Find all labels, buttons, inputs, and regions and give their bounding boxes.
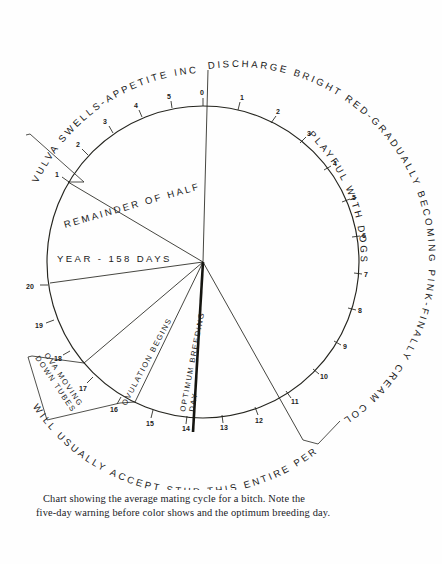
label-playful-with-dogs: PLAYFUL WITH DOGS <box>307 129 370 265</box>
label-remainder-of-half-year: REMAINDER OF HALF YEAR - 158 DAYS <box>57 180 202 264</box>
tick-label-15: 15 <box>146 420 154 427</box>
tick-label-17: 17 <box>79 385 87 392</box>
tick-label-14r: 14 <box>182 425 190 432</box>
tick-label-0: 0 <box>200 89 204 96</box>
radial-day-20 <box>50 262 203 283</box>
tick-l1 <box>62 177 69 182</box>
tick-7 <box>354 273 362 274</box>
tick-label-4l: 4 <box>134 102 138 109</box>
tick-l4 <box>139 110 142 117</box>
tick-2 <box>271 116 276 123</box>
radial-day-0 <box>203 70 208 262</box>
label-remainder-line1: REMAINDER OF HALF <box>63 180 202 230</box>
tick-19 <box>46 320 54 323</box>
label-discharge-text: DISCHARGE BRIGHT RED-GRADUALLY BECOMING … <box>0 0 438 428</box>
tick-label-20: 20 <box>26 283 34 290</box>
label-playful-with-dogs-text: PLAYFUL WITH DOGS <box>307 129 370 265</box>
tick-15 <box>151 410 153 418</box>
tick-label-1l: 1 <box>55 171 59 178</box>
label-discharge: DISCHARGE BRIGHT RED-GRADUALLY BECOMING … <box>0 0 438 428</box>
chart-page: 0 1 2 3 4 5 6 7 8 9 10 11 12 13 14 15 16… <box>0 0 442 564</box>
tick-label-5l: 5 <box>167 93 171 100</box>
tick-numbers-left-warning: 1 2 3 4 5 <box>55 93 171 178</box>
label-ovulation-begins: OVULATION BEGINS <box>120 316 174 407</box>
tick-18 <box>63 351 70 355</box>
radial-day-11 <box>203 262 303 440</box>
label-remainder-line2: YEAR - 158 DAYS <box>57 253 172 264</box>
tick-label-1r: 1 <box>240 94 244 101</box>
radial-day-18 <box>84 262 203 363</box>
tick-label-2l: 2 <box>76 141 80 148</box>
tick-4 <box>324 166 331 170</box>
leader-color-end <box>303 421 340 444</box>
tick-label-8r: 8 <box>358 307 362 314</box>
tick-label-13r: 13 <box>220 424 228 431</box>
tick-numbers-right: 0 1 2 3 4 5 6 7 8 9 10 11 12 13 14 <box>182 89 368 432</box>
tick-label-19: 19 <box>35 322 43 329</box>
caption-line-1: Chart showing the average mating cycle f… <box>36 492 408 506</box>
tick-marks-right <box>186 98 362 424</box>
tick-label-7r: 7 <box>364 271 368 278</box>
tick-label-3l: 3 <box>103 118 107 125</box>
tick-l3 <box>109 126 113 133</box>
tick-17 <box>87 377 93 383</box>
caption-line-2: five-day warning before color shows and … <box>36 506 408 520</box>
tick-label-16: 16 <box>110 406 118 413</box>
tick-label-9r: 9 <box>343 343 347 350</box>
tick-label-2r: 2 <box>276 108 280 115</box>
tick-label-10r: 10 <box>320 373 328 380</box>
tick-label-12r: 12 <box>255 417 263 424</box>
tick-label-11r: 11 <box>291 398 299 405</box>
figure-caption: Chart showing the average mating cycle f… <box>36 492 408 520</box>
mating-cycle-chart: 0 1 2 3 4 5 6 7 8 9 10 11 12 13 14 15 16… <box>0 0 442 490</box>
tick-l2 <box>82 149 88 155</box>
tick-1 <box>238 102 240 110</box>
label-optimum-breeding-day: OPTIMUM BREEDING DAY <box>178 311 206 412</box>
tick-marks-lower-left <box>40 285 153 418</box>
tick-l5 <box>171 101 172 108</box>
